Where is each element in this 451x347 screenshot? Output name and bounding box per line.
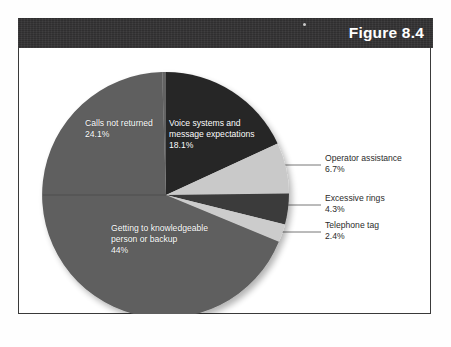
figure-number-title: Figure 8.4	[349, 22, 424, 44]
figure-header-band: Figure 8.4	[18, 18, 433, 48]
figure-content-frame: Calls not returned 24.1% Voice systems a…	[18, 48, 431, 314]
pie-label-voice-systems: Voice systems and message expectations 1…	[169, 118, 273, 152]
pie-callout-operator-assistance: Operator assistance 6.7%	[325, 153, 429, 175]
header-speck-mark	[303, 23, 306, 26]
pie-callout-excessive-rings: Excessive rings 4.3%	[325, 193, 429, 215]
pie-label-knowledgeable-person: Getting to knowledgeable person or backu…	[111, 223, 241, 257]
pie-slice-group	[42, 72, 289, 314]
pie-callout-telephone-tag: Telephone tag 2.4%	[325, 220, 429, 242]
pie-chart-svg	[19, 48, 432, 314]
pie-chart: Calls not returned 24.1% Voice systems a…	[19, 48, 432, 314]
figure-container: Figure 8.4	[0, 0, 451, 347]
